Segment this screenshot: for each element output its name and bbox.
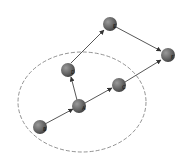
- node-d: D: [61, 63, 75, 77]
- node-c: C: [112, 78, 126, 92]
- edge-d-e: [71, 30, 104, 63]
- node-f: F: [161, 48, 175, 62]
- node-label: E: [113, 23, 116, 29]
- node-label: C: [122, 84, 126, 90]
- edge-b-a: [45, 109, 73, 124]
- edge-a-c: [85, 88, 112, 103]
- edge-c-f: [125, 60, 161, 82]
- edges: [45, 27, 161, 124]
- node-b: B: [33, 120, 47, 134]
- edge-a-d: [71, 77, 77, 100]
- node-e: E: [103, 17, 117, 31]
- node-label: A: [82, 105, 86, 111]
- graph-diagram: B A D E C F: [0, 0, 184, 160]
- node-label: F: [171, 54, 174, 60]
- node-label: B: [43, 126, 47, 132]
- node-a: A: [72, 99, 86, 113]
- edge-e-f: [116, 27, 161, 51]
- node-label: D: [71, 69, 75, 75]
